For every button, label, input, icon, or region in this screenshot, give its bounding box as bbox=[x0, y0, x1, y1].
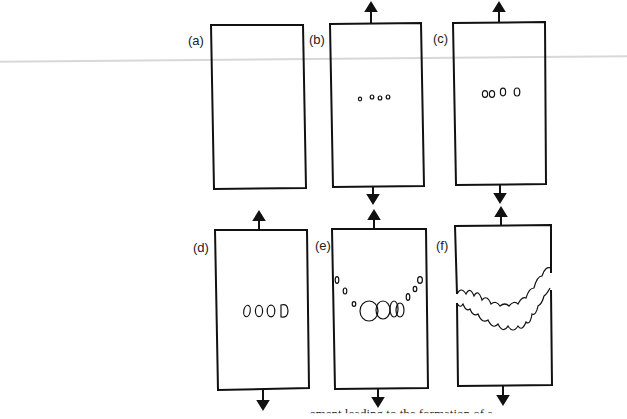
panel-c-voids bbox=[482, 88, 519, 97]
tension-arrows bbox=[254, 3, 508, 409]
panel-c-specimen bbox=[453, 22, 546, 185]
panel-label-b: (b) bbox=[309, 32, 325, 47]
panel-b-specimen bbox=[330, 23, 424, 187]
panel-d-voids bbox=[243, 305, 288, 318]
panel-f-crack bbox=[457, 268, 551, 330]
panel-e-voids bbox=[335, 277, 422, 321]
panel-label-f: (f) bbox=[436, 238, 448, 253]
panel-e-specimen bbox=[332, 229, 428, 389]
panel-label-a: (a) bbox=[188, 33, 204, 48]
panel-b-voids bbox=[358, 95, 389, 101]
panel-label-c: (c) bbox=[433, 31, 448, 46]
panel-f-specimen bbox=[455, 225, 552, 386]
panel-a-specimen bbox=[211, 25, 306, 189]
panel-label-d: (d) bbox=[193, 240, 209, 255]
void-coalescence-diagram bbox=[0, 0, 627, 419]
panel-label-e: (e) bbox=[315, 238, 331, 253]
